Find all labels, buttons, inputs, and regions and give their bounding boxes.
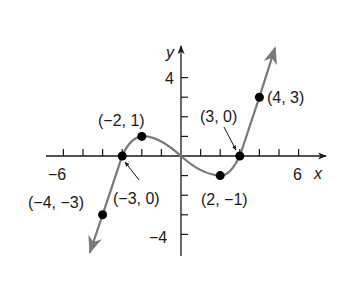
tick-label-neg6: −6: [48, 166, 66, 183]
point-label-neg4-neg3: (−4, −3): [28, 194, 84, 211]
y-axis: [181, 46, 188, 256]
x-axis-label: x: [313, 165, 323, 182]
y-axis-label: y: [165, 44, 175, 61]
point-neg2-1: [137, 132, 146, 141]
tick-label-4: 4: [165, 70, 174, 87]
point-4-3: [255, 93, 264, 102]
tick-label-6: 6: [293, 166, 302, 183]
point-label-3-0: (3, 0): [200, 108, 237, 125]
point-neg4-neg3: [98, 210, 107, 219]
point-label-2-neg1: (2, −1): [201, 191, 248, 208]
point-label-neg3-0: (−3, 0): [113, 190, 160, 207]
point-neg3-0: [118, 152, 127, 161]
leader-line-neg3-0: [125, 162, 139, 180]
point-3-0: [235, 152, 244, 161]
point-2-neg1: [216, 171, 225, 180]
leader-line-3-0: [224, 127, 236, 150]
point-label-neg2-1: (−2, 1): [98, 112, 145, 129]
function-graph: y x −6 6 4 −4 (−4, −3) (−3, 0) (−2, 1) (…: [0, 0, 346, 288]
tick-label-neg4: −4: [149, 229, 167, 246]
point-label-4-3: (4, 3): [267, 89, 304, 106]
x-axis: [46, 149, 326, 156]
